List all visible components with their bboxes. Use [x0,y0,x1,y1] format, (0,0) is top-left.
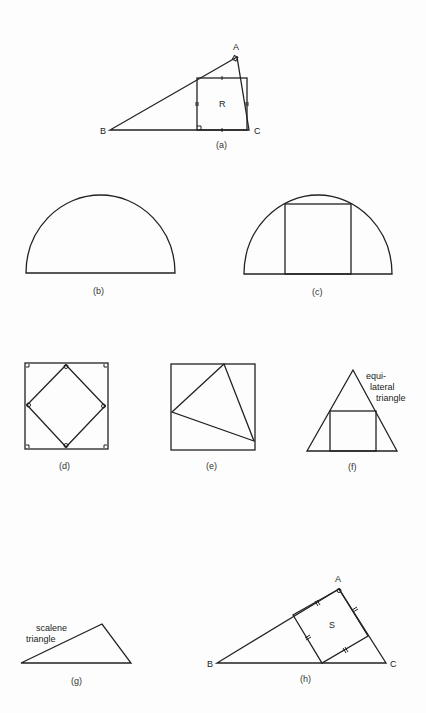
figure-c: (c) [244,195,392,297]
semicircle [244,195,392,274]
note-line-2: triangle [26,634,56,644]
note-line-1: equi- [366,371,386,381]
note-line-1: scalene [36,623,67,633]
vertex-label-c: C [390,659,397,669]
figure-h: A B C S (h) [207,574,397,684]
vertex-label-b: B [100,126,106,136]
region-label-s: S [329,620,335,630]
inscribed-rectangle [330,411,376,451]
figure-canvas: A B C R (a) (b) (c) (d) (e) e [0,0,426,713]
semicircle [26,195,175,273]
figure-b: (b) [26,195,175,296]
vertex-label-c: C [254,126,261,136]
figure-g: scalene triangle (g) [21,623,131,686]
caption-d: (d) [59,461,70,471]
triangle-abc [110,57,249,130]
caption-g: (g) [71,676,82,686]
caption-b: (b) [93,286,104,296]
caption-f: (f) [348,462,357,472]
figure-d: (d) [25,363,108,471]
triangle-abc [217,589,386,663]
region-label-r: R [219,99,226,109]
inscribed-triangle [172,364,254,441]
figure-f: equi- lateral triangle (f) [307,370,406,472]
vertex-label-a: A [233,42,239,52]
caption-c: (c) [312,287,323,297]
caption-h: (h) [300,674,311,684]
figure-a: A B C R (a) [100,42,261,150]
caption-a: (a) [216,140,227,150]
vertex-label-b: B [207,659,213,669]
vertex-label-a: A [335,574,341,584]
note-line-2: lateral [370,382,395,392]
inscribed-square [27,365,105,447]
caption-e: (e) [206,461,217,471]
outer-square [25,363,108,449]
note-line-3: triangle [376,393,406,403]
inscribed-rectangle [285,204,351,274]
figure-e: (e) [171,364,255,471]
